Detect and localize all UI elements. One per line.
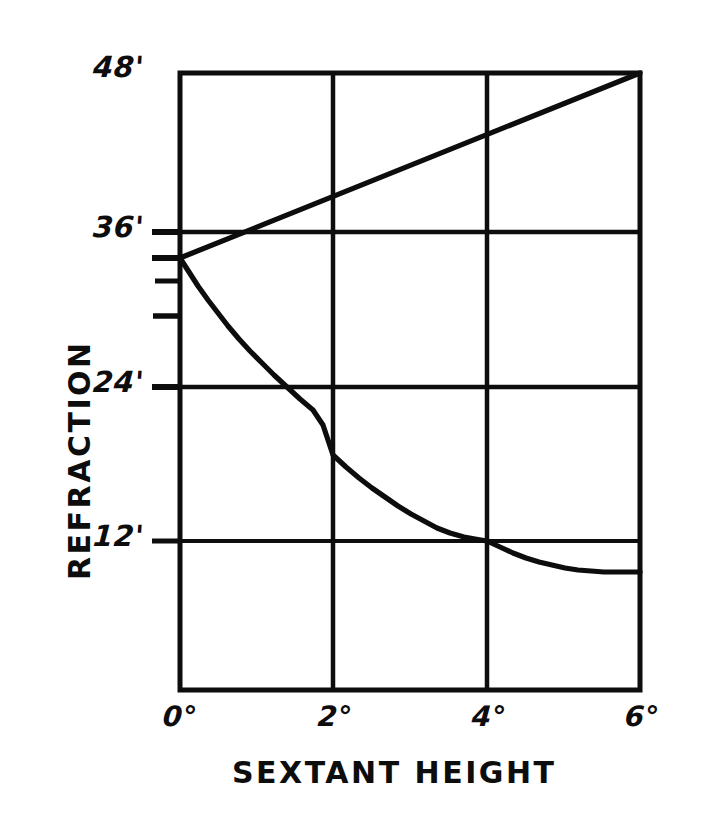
chart-canvas <box>0 0 709 836</box>
axis-minor-ticks <box>152 232 180 541</box>
x-tick-label-2: 2° <box>317 700 354 733</box>
x-axis-title: SEXTANT HEIGHT <box>232 755 557 790</box>
gridlines-horizontal <box>181 232 639 541</box>
x-tick-label-4: 4° <box>471 700 508 733</box>
y-axis-title: REFRACTION <box>62 340 97 580</box>
y-tick-label-48: 48' <box>81 50 145 84</box>
x-tick-label-6: 6° <box>624 700 661 733</box>
series-falling-curve <box>180 258 640 572</box>
y-tick-label-36: 36' <box>81 210 145 244</box>
chart-figure: 48' 36' 24' 12' 0° 2° 4° 6° REFRACTION S… <box>0 0 709 836</box>
x-tick-label-0: 0° <box>162 700 199 733</box>
